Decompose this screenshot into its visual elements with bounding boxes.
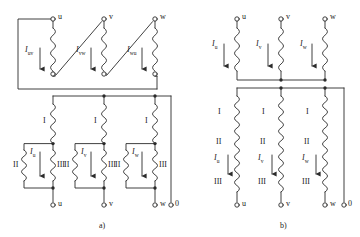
label-b-line-current-v: Iv [256,40,261,50]
coil-a-III-v [102,150,107,181]
label-a-current-w: Iw [132,148,139,158]
label-b-winding-III-v: III [258,178,266,186]
node-a-delta-w-bot [153,72,157,76]
label-b-bot-0: 0 [348,200,352,208]
coil-a-delta-wu [153,28,158,71]
label-a-winding-II-u: II [13,161,18,169]
label-a-current-u: Iu [30,148,35,158]
label-a-bot-v: v [109,200,113,208]
terminal-b-top-u [235,17,239,21]
node-a-delta-v-bot [102,72,106,76]
label-b-line-current-w: Iw [300,40,307,50]
label-b-bot-u: u [242,200,246,208]
label-a-winding-I-w: I [145,117,148,125]
coil-a-III-w [153,150,158,181]
caption-b: b) [280,222,287,230]
coil-a-delta-uv [51,28,56,71]
label-b-winding-III-u: III [214,178,222,186]
terminal-a-bot-u [51,203,55,207]
label-a-current-vw: Ivw [76,46,85,56]
coil-b-series-w [323,96,328,192]
label-b-bot-w: w [330,200,336,208]
label-a-winding-III-u: III [57,161,65,169]
coil-a-III-u [51,150,56,181]
label-b-top-v: v [286,13,290,21]
coil-b-top-u [235,28,240,71]
terminal-a-bot-v [102,203,106,207]
coil-a-I-w [153,104,158,144]
figure-canvas: u v w Iuv Ivw Iwu I I I II II II III III… [0,0,360,237]
label-b-winding-III-w: III [302,178,310,186]
terminal-a-top-v [102,17,106,21]
label-a-top-u: u [58,13,62,21]
label-b-winding-II-v: II [260,138,265,146]
caption-a: a) [99,222,105,230]
coil-b-top-v [279,28,284,71]
label-a-winding-III-w: III [159,161,167,169]
label-a-top-w: w [160,13,166,21]
label-a-current-uv: Iuv [25,46,33,56]
junction-b-star-v [279,78,282,81]
node-a-delta-u-bot [51,72,55,76]
label-b-phase-current-v: Iv [258,154,263,164]
terminal-a-bot-0 [169,203,173,207]
terminal-a-bot-w [153,203,157,207]
label-b-line-current-u: Iu [212,40,217,50]
coil-a-II-u [22,150,27,181]
coil-b-top-w [323,28,328,71]
label-a-current-wu: Iwu [127,46,136,56]
junction-a-v [102,94,105,97]
label-a-bot-u: u [58,200,62,208]
label-b-phase-current-u: Iu [214,154,219,164]
coil-a-I-v [102,104,107,144]
junction-b-star-w [323,78,326,81]
terminal-b-top-w [323,17,327,21]
label-b-bot-v: v [286,200,290,208]
terminal-b-bot-v [279,203,283,207]
circuit-drawing [0,0,360,237]
junction-b-lower-v [279,86,282,89]
coil-b-series-v [279,96,284,192]
label-b-winding-I-v: I [262,108,265,116]
label-b-winding-I-u: I [218,108,221,116]
coil-b-series-u [235,96,240,192]
coil-a-I-u [51,104,56,144]
label-b-top-u: u [242,13,246,21]
label-a-top-v: v [109,13,113,21]
label-a-winding-I-v: I [94,117,97,125]
label-b-phase-current-w: Iw [302,154,309,164]
junction-a-w [153,94,156,97]
terminal-b-bot-u [235,203,239,207]
label-a-current-v: Iv [81,148,86,158]
label-a-winding-III-v: III [108,161,116,169]
terminal-b-bot-0 [342,203,346,207]
coil-a-II-w [124,150,129,181]
label-a-bot-0: 0 [175,200,179,208]
label-b-winding-I-w: I [306,108,309,116]
label-b-winding-II-w: II [304,138,309,146]
terminal-a-top-u [51,17,55,21]
terminal-b-top-v [279,17,283,21]
label-a-bot-w: w [160,200,166,208]
coil-a-II-v [73,150,78,181]
terminal-a-top-w [153,17,157,21]
coil-a-delta-vw [102,28,107,71]
label-a-winding-I-u: I [43,117,46,125]
label-b-winding-II-u: II [216,138,221,146]
terminal-b-bot-w [323,203,327,207]
label-b-top-w: w [330,13,336,21]
junction-b-lower-w [323,86,326,89]
